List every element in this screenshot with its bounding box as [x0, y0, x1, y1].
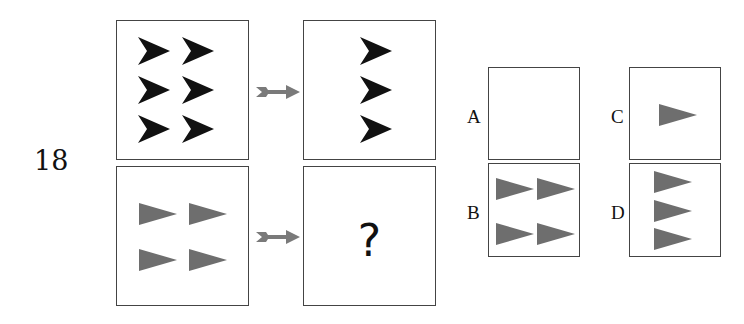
- triangle-icon: [139, 203, 177, 225]
- option-label-d: D: [611, 202, 625, 224]
- option-label-b: B: [467, 202, 480, 224]
- triangle-icon: [654, 171, 692, 193]
- chevron-icon: [360, 115, 392, 143]
- chevron-icon: [360, 37, 392, 65]
- option-c[interactable]: [629, 67, 721, 160]
- triangle-icon: [189, 249, 227, 271]
- triangle-icon: [659, 104, 697, 126]
- triangle-icon: [654, 228, 692, 250]
- chevron-icon: [182, 37, 214, 65]
- question-number: 18: [34, 145, 68, 176]
- row1-left-panel: [116, 20, 249, 160]
- chevron-icon: [182, 115, 214, 143]
- triangle-icon: [496, 223, 534, 245]
- chevron-icon: [138, 37, 170, 65]
- triangle-icon: [537, 223, 575, 245]
- option-b[interactable]: [488, 163, 580, 257]
- triangle-icon: [139, 249, 177, 271]
- chevron-icon: [182, 76, 214, 104]
- chevron-icon: [138, 76, 170, 104]
- row2-right-panel-unknown: ?: [303, 166, 436, 306]
- transform-arrow-icon: [256, 84, 300, 100]
- triangle-icon: [537, 178, 575, 200]
- option-a[interactable]: [488, 67, 580, 160]
- option-d[interactable]: [629, 163, 721, 257]
- triangle-icon: [189, 203, 227, 225]
- triangle-icon: [654, 200, 692, 222]
- option-label-c: C: [611, 106, 624, 128]
- chevron-icon: [138, 115, 170, 143]
- option-label-a: A: [467, 106, 481, 128]
- triangle-icon: [496, 178, 534, 200]
- question-mark: ?: [304, 215, 435, 266]
- row2-left-panel: [116, 166, 249, 306]
- transform-arrow-icon: [256, 229, 300, 245]
- row1-right-panel: [303, 20, 436, 160]
- chevron-icon: [360, 76, 392, 104]
